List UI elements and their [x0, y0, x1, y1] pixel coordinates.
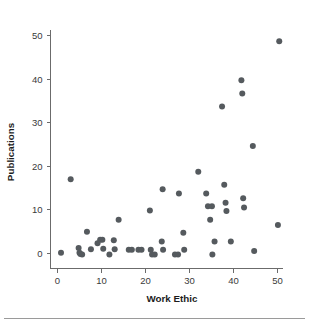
scatter-point	[68, 176, 74, 182]
scatter-point	[139, 247, 145, 253]
scatter-point	[207, 217, 213, 223]
scatter-point	[88, 246, 94, 252]
figure-background	[0, 0, 309, 324]
scatter-point	[221, 182, 227, 188]
scatter-point	[228, 238, 234, 244]
scatter-point	[180, 230, 186, 236]
x-tick-label: 50	[272, 275, 283, 286]
y-tick-label: 40	[32, 74, 43, 85]
x-tick-label: 30	[184, 275, 195, 286]
x-tick-label: 40	[228, 275, 239, 286]
scatter-point	[129, 247, 135, 253]
x-tick-label: 10	[96, 275, 107, 286]
scatter-point	[275, 222, 281, 228]
scatter-point	[116, 217, 122, 223]
y-axis-title: Publications	[5, 122, 16, 181]
scatter-point	[147, 208, 153, 214]
y-tick-label: 20	[32, 161, 43, 172]
scatter-point	[219, 103, 225, 109]
scatter-point	[209, 252, 215, 258]
x-axis-title: Work Ethic	[147, 293, 199, 304]
scatter-point	[223, 208, 229, 214]
scatter-point	[209, 203, 215, 209]
scatter-point	[106, 252, 112, 258]
scatter-point	[223, 200, 229, 206]
scatter-point	[84, 229, 90, 235]
y-tick-label: 10	[32, 204, 43, 215]
scatter-plot-figure: 01020304050 01020304050 Publications Wor…	[0, 0, 309, 324]
scatter-point	[240, 195, 246, 201]
x-tick-label: 0	[55, 275, 60, 286]
scatter-point	[212, 238, 218, 244]
y-tick-label: 50	[32, 30, 43, 41]
scatter-point	[112, 246, 118, 252]
y-tick-label: 0	[37, 248, 42, 259]
scatter-point	[175, 252, 181, 258]
y-tick-label: 30	[32, 117, 43, 128]
scatter-point	[160, 186, 166, 192]
scatter-point	[238, 77, 244, 83]
scatter-point	[195, 169, 201, 175]
scatter-chart: 01020304050 01020304050 Publications Wor…	[0, 0, 309, 324]
x-tick-label: 20	[140, 275, 151, 286]
scatter-point	[160, 247, 166, 253]
scatter-point	[250, 143, 256, 149]
scatter-point	[152, 252, 158, 258]
scatter-point	[251, 248, 257, 254]
scatter-point	[58, 250, 64, 256]
scatter-point	[203, 191, 209, 197]
scatter-point	[79, 252, 85, 258]
scatter-point	[159, 238, 165, 244]
scatter-point	[100, 246, 106, 252]
scatter-point	[276, 38, 282, 44]
scatter-point	[241, 204, 247, 210]
scatter-point	[99, 237, 105, 243]
scatter-point	[111, 237, 117, 243]
scatter-point	[239, 90, 245, 96]
scatter-point	[176, 191, 182, 197]
scatter-point	[181, 247, 187, 253]
